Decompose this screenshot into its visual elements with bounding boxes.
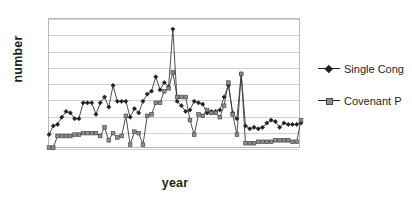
data-point bbox=[196, 101, 200, 105]
data-point bbox=[201, 114, 205, 118]
data-point bbox=[77, 117, 81, 121]
data-point bbox=[265, 140, 269, 144]
data-point bbox=[163, 89, 167, 93]
data-point bbox=[120, 99, 124, 103]
series-line bbox=[49, 29, 301, 134]
data-point bbox=[81, 101, 85, 105]
data-point bbox=[124, 99, 128, 103]
y-axis-title: number bbox=[11, 29, 25, 89]
data-point bbox=[141, 99, 145, 103]
data-point bbox=[86, 131, 90, 135]
chart-container: number year Single Cong Covenant P bbox=[0, 0, 412, 201]
data-point bbox=[222, 104, 226, 108]
data-point bbox=[137, 131, 141, 135]
data-point bbox=[56, 134, 60, 138]
data-point bbox=[69, 134, 73, 138]
data-point bbox=[278, 139, 282, 143]
data-point bbox=[256, 127, 260, 131]
data-point bbox=[218, 108, 222, 112]
data-point bbox=[286, 139, 290, 143]
data-point bbox=[64, 134, 68, 138]
data-point bbox=[51, 124, 55, 128]
data-point bbox=[73, 133, 77, 137]
data-point bbox=[124, 114, 128, 118]
data-point bbox=[248, 141, 252, 145]
data-point bbox=[116, 136, 120, 140]
data-point bbox=[180, 95, 184, 99]
data-point bbox=[231, 113, 235, 117]
data-point bbox=[295, 122, 299, 126]
data-point bbox=[94, 112, 98, 116]
data-point bbox=[282, 139, 286, 143]
gridline bbox=[49, 149, 299, 150]
data-point bbox=[291, 140, 295, 144]
x-axis-title: year bbox=[100, 176, 250, 190]
data-point bbox=[167, 87, 171, 91]
data-point bbox=[188, 118, 192, 122]
data-point bbox=[184, 95, 188, 99]
data-point bbox=[128, 115, 132, 119]
data-point bbox=[218, 115, 222, 119]
data-point bbox=[299, 118, 303, 122]
data-point bbox=[154, 75, 158, 79]
data-point bbox=[290, 122, 294, 126]
data-point bbox=[252, 125, 256, 129]
data-point bbox=[77, 133, 81, 137]
data-point bbox=[261, 140, 265, 144]
data-point bbox=[171, 71, 175, 75]
series-covenant-p bbox=[47, 71, 303, 150]
data-point bbox=[256, 140, 260, 144]
data-point bbox=[252, 141, 256, 145]
data-point bbox=[171, 27, 175, 31]
data-point bbox=[85, 101, 89, 105]
data-point bbox=[239, 72, 243, 76]
data-point bbox=[90, 101, 94, 105]
data-point bbox=[158, 101, 162, 105]
plot-area bbox=[48, 18, 300, 148]
diamond-marker-icon bbox=[318, 63, 340, 75]
data-point bbox=[154, 101, 158, 105]
data-point bbox=[115, 99, 119, 103]
series-single-cong bbox=[47, 27, 303, 137]
data-point bbox=[175, 95, 179, 99]
data-point bbox=[210, 111, 214, 115]
data-point bbox=[51, 146, 55, 150]
square-marker-icon bbox=[318, 95, 340, 107]
data-point bbox=[205, 108, 209, 112]
data-point bbox=[133, 130, 137, 134]
data-point bbox=[286, 122, 290, 126]
legend-item-covenant-p[interactable]: Covenant P bbox=[318, 90, 412, 112]
data-point bbox=[274, 139, 278, 143]
chart-legend: Single Cong Covenant P bbox=[318, 58, 412, 122]
data-point bbox=[94, 131, 98, 135]
data-point bbox=[111, 131, 115, 135]
data-point bbox=[141, 143, 145, 147]
data-point bbox=[295, 140, 299, 144]
data-point bbox=[107, 139, 111, 143]
data-point bbox=[192, 99, 196, 103]
data-point bbox=[120, 134, 124, 138]
data-point bbox=[111, 83, 115, 87]
data-point bbox=[128, 143, 132, 147]
data-point bbox=[107, 105, 111, 109]
data-point bbox=[98, 134, 102, 138]
series-line bbox=[49, 72, 301, 147]
data-point bbox=[214, 111, 218, 115]
data-point bbox=[81, 131, 85, 135]
data-point bbox=[235, 133, 239, 137]
data-point bbox=[60, 134, 64, 138]
legend-label-covenant-p: Covenant P bbox=[344, 95, 401, 107]
data-point bbox=[192, 133, 196, 137]
data-point bbox=[55, 122, 59, 126]
data-point bbox=[145, 114, 149, 118]
data-point bbox=[47, 146, 51, 150]
data-point bbox=[201, 102, 205, 106]
legend-item-single-cong[interactable]: Single Cong bbox=[318, 58, 412, 80]
legend-label-single-cong: Single Cong bbox=[344, 63, 404, 75]
data-point bbox=[244, 141, 248, 145]
data-point bbox=[90, 131, 94, 135]
data-point bbox=[103, 126, 107, 130]
data-point bbox=[150, 113, 154, 117]
series-layer bbox=[49, 19, 301, 149]
data-point bbox=[227, 81, 231, 85]
